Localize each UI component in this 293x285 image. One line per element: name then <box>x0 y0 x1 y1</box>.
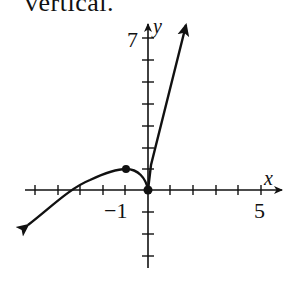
curve-right-branch <box>148 25 186 190</box>
point-cusp-origin <box>144 186 153 195</box>
point-local-max <box>122 165 130 173</box>
y-axis-label: y <box>151 15 162 38</box>
x-axis <box>25 185 282 195</box>
x-tick-label-5: 5 <box>254 198 265 223</box>
y-tick-label-7: 7 <box>127 27 138 52</box>
y-axis <box>142 24 154 268</box>
curve-left-branch <box>28 169 148 225</box>
x-axis-label: x <box>263 167 273 189</box>
x-tick-label-neg1: −1 <box>104 198 127 223</box>
function-graph: 7 y x −1 5 <box>0 0 293 285</box>
